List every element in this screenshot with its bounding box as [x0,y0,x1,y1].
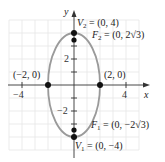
y-axis-arrow-icon [72,10,77,17]
point-v2 [71,30,77,36]
tick-label-neg4: −4 [13,89,24,100]
label-f1: F1 = (0, −2√3) [90,119,149,132]
y-axis-label: y [63,6,69,17]
label-right-intercept: (2, 0) [104,69,126,81]
x-axis-arrow-icon [143,83,150,88]
ellipse-chart: −4 4 2 −2 x y V2 = (0, 4) F2 = (0, 2√3) … [0,0,165,162]
tick-label-2: 2 [64,53,69,64]
point-f2 [71,37,76,42]
point-left [45,82,51,88]
label-f2: F2 = (0, 2√3) [91,29,144,42]
tick-label-4: 4 [122,89,127,100]
point-f1 [71,127,76,132]
point-right [97,82,103,88]
tick-label-neg2: −2 [57,105,68,116]
label-left-intercept: (−2, 0) [13,69,40,81]
label-v1: V1 = (0, −4) [75,140,123,153]
x-axis-label: x [143,89,149,100]
